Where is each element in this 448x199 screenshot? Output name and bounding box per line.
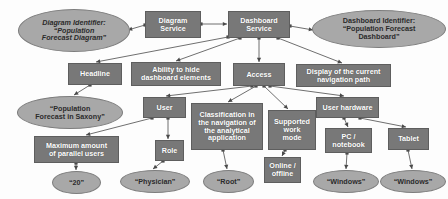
node-ability-to-hide-dashboard-elements[interactable]: Ability to hide dashboard elements (131, 62, 221, 86)
node-label-dashboard-identifier: Dashboard Identifier: “Population Foreca… (343, 17, 416, 40)
node-label-maximum-amount-of-parallel-users: Maximum amount of parallel users (46, 142, 107, 158)
node-headline[interactable]: Headline (68, 63, 122, 85)
node-maximum-amount-of-parallel-users[interactable]: Maximum amount of parallel users (34, 136, 119, 163)
edge-access-to-supported-work-mode (262, 84, 288, 109)
edge-diagram-service-to-dashboard-service (199, 22, 227, 26)
node-label-value-windows-tablet: “Windows” (394, 178, 433, 186)
node-access[interactable]: Access (233, 63, 285, 86)
node-label-diagram-identifier: Diagram Identifier: “Population Forecast… (42, 19, 106, 42)
edge-tablet-to-value-windows-tablet (406, 148, 413, 169)
edge-access-to-classification-in-the-navigation-of-the-analytical-application (228, 84, 258, 102)
edge-classification-in-the-navigation-of-the-analytical-application-to-value-root (221, 148, 228, 169)
node-label-role: Role (162, 147, 178, 155)
node-diagram-identifier[interactable]: Diagram Identifier: “Population Forecast… (18, 9, 130, 52)
node-online-offline[interactable]: Online / offline (264, 157, 301, 183)
node-label-value-root: “Root” (217, 178, 241, 186)
edge-access-to-user (166, 84, 254, 97)
node-value-physician[interactable]: “Physician” (120, 170, 190, 193)
node-supported-work-mode[interactable]: Supported work mode (268, 110, 316, 150)
edge-dashboard-service-to-access (257, 36, 261, 62)
node-label-display-of-the-current-navigation-path: Display of the current navigation path (307, 68, 381, 84)
node-label-online-offline: Online / offline (269, 162, 295, 178)
node-label-access: Access (246, 71, 271, 79)
node-dashboard-service[interactable]: Dashboard Service (228, 11, 290, 38)
node-label-value-windows-pc: “Windows” (327, 178, 366, 186)
node-label-pc-notebook: PC / notebook (332, 133, 364, 149)
node-label-ability-to-hide-dashboard-elements: Ability to hide dashboard elements (141, 66, 211, 82)
node-value-20[interactable]: “20” (52, 171, 101, 194)
node-label-population-forecast-in-saxony: “Population Forecast in Saxony” (35, 105, 105, 121)
node-value-windows-pc[interactable]: “Windows” (313, 170, 379, 193)
diagram-canvas: Diagram Identifier: “Population Forecast… (0, 0, 448, 199)
node-value-windows-tablet[interactable]: “Windows” (380, 170, 446, 193)
node-label-dashboard-service: Dashboard Service (240, 17, 278, 33)
edge-dashboard-service-to-ability-to-hide-dashboard-elements (176, 36, 242, 61)
edge-pc-notebook-to-value-windows-pc (344, 151, 348, 169)
node-population-forecast-in-saxony[interactable]: “Population Forecast in Saxony” (17, 96, 123, 129)
node-label-user: User (157, 104, 173, 112)
node-label-supported-work-mode: Supported work mode (274, 118, 310, 141)
node-tablet[interactable]: Tablet (388, 128, 429, 150)
node-classification-in-the-navigation-of-the-analytical-application[interactable]: Classification in the navigation of the … (191, 103, 263, 150)
node-label-headline: Headline (80, 70, 110, 78)
node-user-hardware[interactable]: User hardware (316, 97, 379, 118)
node-pc-notebook[interactable]: PC / notebook (325, 128, 372, 153)
node-display-of-the-current-navigation-path[interactable]: Display of the current navigation path (296, 64, 391, 87)
edge-diagram-service-to-diagram-identifier (128, 23, 147, 30)
node-diagram-service[interactable]: Diagram Service (145, 11, 201, 38)
node-label-diagram-service: Diagram Service (159, 17, 188, 33)
node-label-classification-in-the-navigation-of-the-analytical-application: Classification in the navigation of the … (198, 111, 256, 142)
node-label-user-hardware: User hardware (323, 104, 373, 112)
node-role[interactable]: Role (155, 140, 184, 161)
edge-headline-to-population-forecast-in-saxony (74, 83, 92, 95)
edge-user-hardware-to-tablet (358, 116, 406, 128)
node-label-value-physician: “Physician” (135, 178, 176, 186)
node-value-root[interactable]: “Root” (203, 170, 254, 193)
edge-dashboard-service-to-dashboard-identifier (288, 24, 313, 31)
node-label-value-20: “20” (69, 179, 84, 187)
node-label-tablet: Tablet (398, 135, 419, 143)
node-user[interactable]: User (143, 97, 186, 118)
node-dashboard-identifier[interactable]: Dashboard Identifier: “Population Foreca… (312, 10, 446, 48)
edge-user-to-role (166, 116, 170, 139)
